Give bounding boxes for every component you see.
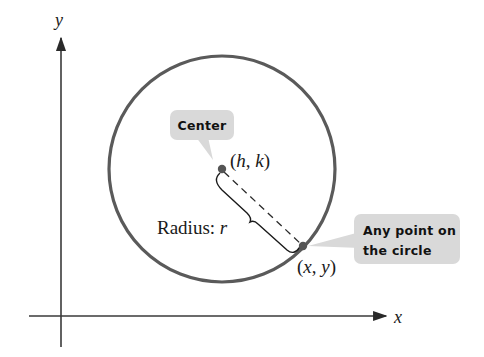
center-point (218, 165, 226, 173)
y-axis-label: y (53, 10, 63, 30)
radius-label: Radius: r (157, 217, 228, 238)
radius-brace (216, 173, 300, 252)
point-coordinates-label: (x, y) (297, 256, 336, 278)
center-callout-text: Center (178, 118, 228, 133)
circle-diagram: y x Center Any point on the circle (h, k… (0, 0, 484, 357)
point-callout-line2: the circle (363, 243, 432, 258)
point-callout-line1: Any point on (363, 223, 456, 238)
x-axis-label: x (393, 307, 402, 327)
center-callout: Center (170, 110, 234, 160)
center-coordinates-label: (h, k) (230, 150, 270, 172)
radius-line (224, 172, 302, 245)
circle-point (299, 242, 307, 250)
